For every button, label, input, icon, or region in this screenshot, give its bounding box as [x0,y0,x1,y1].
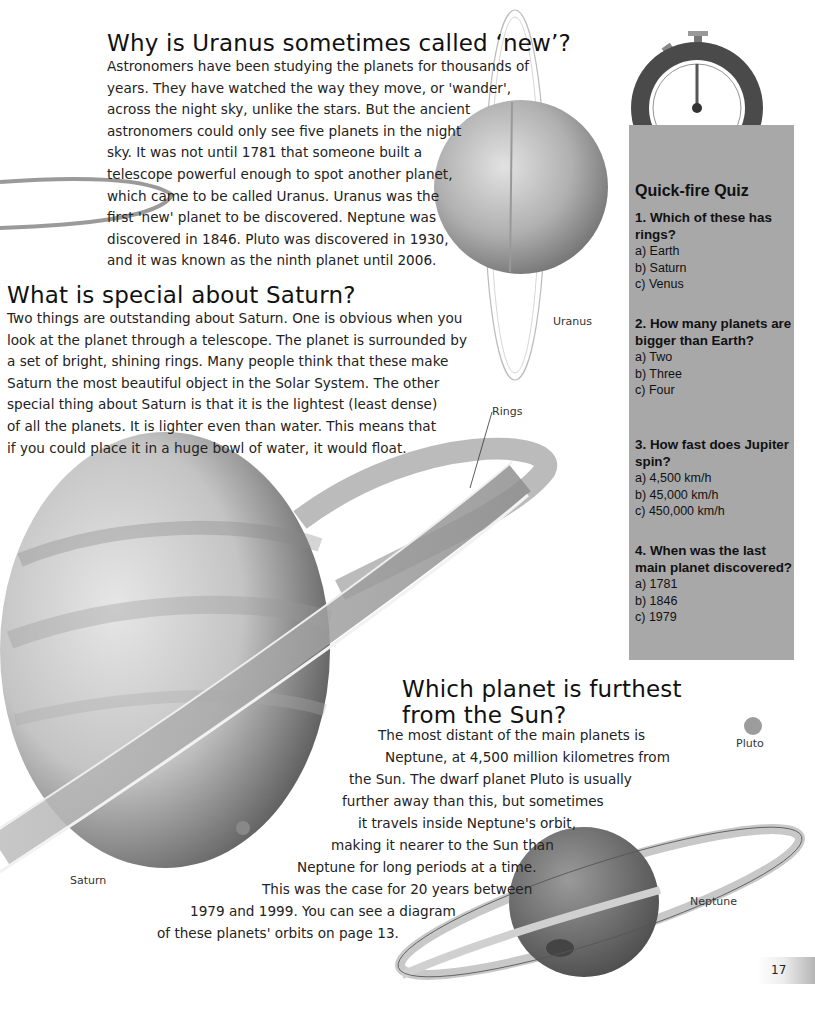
pluto-label: Pluto [736,737,764,750]
quiz-question-1: 1. Which of these has rings? a) Earth b)… [635,209,793,293]
uranus-label: Uranus [553,315,592,328]
answer-option: b) 45,000 km/h [635,487,793,504]
saturn-label: Saturn [70,874,106,887]
text-line: Two things are outstanding about Saturn.… [7,308,467,330]
text-line: sky. It was not until 1781 that someone … [107,142,571,164]
furthest-heading: Which planet is furthest from the Sun? [402,676,682,728]
uranus-body: Astronomers have been studying the plane… [107,56,571,272]
answer-option: a) 4,500 km/h [635,470,793,487]
heading-line: Which planet is furthest [402,676,682,702]
text-line: special thing about Saturn is that it is… [7,394,467,416]
quiz-question-3: 3. How fast does Jupiter spin? a) 4,500 … [635,436,793,520]
answer-option: c) Venus [635,276,793,293]
text-line: The most distant of the main planets is [378,725,645,747]
text-line: years. They have watched the way they mo… [107,78,571,100]
text-line: Neptune, at 4,500 million kilometres fro… [385,747,670,769]
question-text: 3. How fast does Jupiter spin? [635,436,793,470]
answer-option: a) Two [635,349,793,366]
text-line: first 'new' planet to be discovered. Nep… [107,207,571,229]
answer-option: a) Earth [635,243,793,260]
page-number: 17 [771,963,786,977]
text-line: Neptune for long periods at a time. [297,857,536,879]
text-line: Saturn the most beautiful object in the … [7,373,467,395]
text-line: across the night sky, unlike the stars. … [107,99,571,121]
uranus-section: Why is Uranus sometimes called ‘new’? As… [107,30,571,272]
answer-option: b) Three [635,366,793,383]
text-line: This was the case for 20 years between [262,879,532,901]
uranus-heading: Why is Uranus sometimes called ‘new’? [107,30,571,56]
text-line: Astronomers have been studying the plane… [107,56,571,78]
text-line: if you could place it in a huge bowl of … [7,438,467,460]
answer-option: c) Four [635,382,793,399]
text-line: discovered in 1846. Pluto was discovered… [107,229,571,251]
saturn-heading: What is special about Saturn? [7,282,467,308]
page-number-tab: 17 [757,957,815,984]
answer-option: c) 450,000 km/h [635,503,793,520]
text-line: making it nearer to the Sun than [331,835,554,857]
text-line: it travels inside Neptune's orbit, [358,813,576,835]
text-line: 1979 and 1999. You can see a diagram [190,901,456,923]
rings-label: Rings [492,405,522,418]
question-text: 4. When was the last main planet discove… [635,542,793,576]
question-text: 1. Which of these has rings? [635,209,793,243]
question-text: 2. How many planets are bigger than Eart… [635,315,793,349]
text-line: the Sun. The dwarf planet Pluto is usual… [349,769,632,791]
text-line: further away than this, but sometimes [342,791,604,813]
saturn-section: What is special about Saturn? Two things… [7,282,467,459]
pluto-planet [744,717,762,735]
text-line: look at the planet through a telescope. … [7,330,467,352]
answer-option: c) 1979 [635,609,793,626]
answer-option: b) Saturn [635,260,793,277]
text-line: which came to be called Uranus. Uranus w… [107,186,571,208]
text-line: a set of bright, shining rings. Many peo… [7,351,467,373]
text-line: of all the planets. It is lighter even t… [7,416,467,438]
quiz-box: Quick-fire Quiz 1. Which of these has ri… [629,125,794,660]
text-line: telescope powerful enough to spot anothe… [107,164,571,186]
quiz-question-4: 4. When was the last main planet discove… [635,542,793,626]
quiz-title: Quick-fire Quiz [635,182,749,200]
neptune-label: Neptune [690,895,737,908]
saturn-body: Two things are outstanding about Saturn.… [7,308,467,459]
answer-option: a) 1781 [635,576,793,593]
answer-option: b) 1846 [635,593,793,610]
text-line: astronomers could only see five planets … [107,121,571,143]
text-line: and it was known as the ninth planet unt… [107,250,571,272]
text-line: of these planets' orbits on page 13. [157,923,399,945]
quiz-question-2: 2. How many planets are bigger than Eart… [635,315,793,399]
